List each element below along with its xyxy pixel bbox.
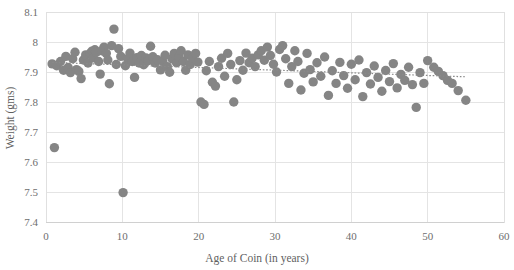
data-point: [335, 58, 344, 67]
data-point: [296, 85, 305, 94]
x-axis-title: Age of Coin (in years): [205, 252, 309, 265]
data-point: [447, 79, 456, 88]
data-point: [109, 24, 118, 33]
data-point: [366, 79, 375, 88]
y-axis-tick-label: 7.5: [24, 186, 38, 198]
data-point: [412, 103, 421, 112]
x-axis-tick-label: 40: [346, 230, 358, 242]
data-point: [320, 52, 329, 61]
data-point: [205, 57, 214, 66]
data-point: [308, 77, 317, 86]
data-point: [105, 79, 114, 88]
data-point: [94, 57, 103, 66]
y-axis-tick-labels: 7.47.57.67.77.87.988.1: [24, 6, 38, 228]
y-axis-tick-label: 7.7: [24, 126, 38, 138]
data-point: [193, 57, 202, 66]
data-point: [316, 72, 325, 81]
data-point: [293, 57, 302, 66]
data-point: [370, 61, 379, 70]
data-point: [377, 87, 386, 96]
data-point: [266, 51, 275, 60]
data-point: [263, 42, 272, 51]
data-point: [358, 92, 367, 101]
data-point: [165, 68, 174, 77]
data-point: [95, 69, 104, 78]
x-axis-tick-label: 10: [117, 230, 129, 242]
x-axis-tick-label: 50: [422, 230, 434, 242]
data-point: [385, 77, 394, 86]
data-point: [214, 62, 223, 71]
data-point: [404, 62, 413, 71]
data-point: [302, 49, 311, 58]
chart-canvas: 7.47.57.67.77.87.988.1 0102030405060 Age…: [0, 0, 514, 270]
y-axis-tick-label: 7.4: [24, 216, 38, 228]
x-axis-tick-labels: 0102030405060: [43, 230, 510, 242]
data-point: [284, 79, 293, 88]
data-point: [373, 73, 382, 82]
y-axis-tick-label: 8: [33, 36, 39, 48]
data-point: [350, 75, 359, 84]
data-points: [47, 24, 470, 197]
data-point: [408, 80, 417, 89]
data-point: [238, 66, 247, 75]
data-point: [112, 60, 121, 69]
data-point: [118, 188, 127, 197]
data-point: [324, 91, 333, 100]
data-point: [272, 67, 281, 76]
data-point: [76, 74, 85, 83]
data-point: [389, 59, 398, 68]
data-point: [229, 97, 238, 106]
data-point: [339, 71, 348, 80]
data-point: [362, 68, 371, 77]
data-point: [199, 100, 208, 109]
x-axis-tick-label: 30: [270, 230, 282, 242]
data-point: [278, 41, 287, 50]
data-point: [146, 42, 155, 51]
data-point: [290, 46, 299, 55]
data-point: [343, 84, 352, 93]
data-point: [305, 65, 314, 74]
scatter-chart: 7.47.57.67.77.87.988.1 0102030405060 Age…: [0, 0, 514, 270]
y-axis-tick-label: 7.9: [24, 66, 38, 78]
y-axis-tick-label: 7.8: [24, 96, 38, 108]
data-point: [223, 49, 232, 58]
x-axis-tick-label: 20: [193, 230, 205, 242]
data-point: [281, 54, 290, 63]
y-axis-tick-label: 8.1: [24, 6, 38, 18]
data-point: [50, 143, 59, 152]
data-point: [235, 56, 244, 65]
data-point: [328, 66, 337, 75]
data-point: [130, 73, 139, 82]
data-point: [250, 62, 259, 71]
data-point: [211, 81, 220, 90]
data-point: [232, 75, 241, 84]
x-axis-tick-label: 60: [499, 230, 511, 242]
y-axis-tick-label: 7.6: [24, 156, 38, 168]
data-point: [191, 49, 200, 58]
data-point: [392, 83, 401, 92]
data-point: [461, 96, 470, 105]
data-point: [103, 55, 112, 64]
data-point: [454, 86, 463, 95]
data-point: [226, 60, 235, 69]
data-point: [220, 72, 229, 81]
data-point: [354, 55, 363, 64]
data-point: [312, 58, 321, 67]
y-axis-title: Weight (gms): [4, 87, 17, 150]
data-point: [331, 79, 340, 88]
data-point: [419, 79, 428, 88]
x-axis-tick-label: 0: [43, 230, 49, 242]
data-point: [70, 48, 79, 57]
